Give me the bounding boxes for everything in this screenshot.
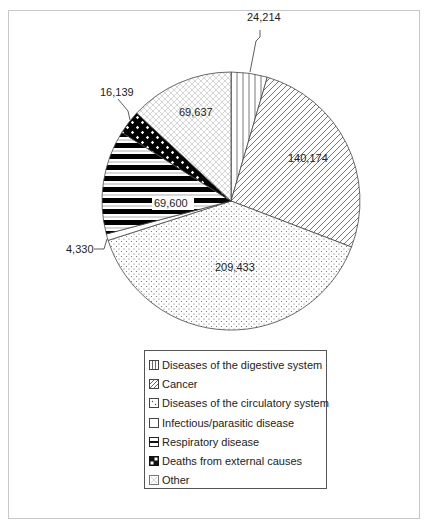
legend-label: Diseases of the digestive system [162,359,322,371]
legend-label: Diseases of the circulatory system [162,397,329,409]
blank-swatch-icon [149,418,159,428]
value-label-external: 16,139 [100,86,134,98]
legend-item-infectious: Infectious/parasitic disease [149,413,326,432]
legend-item-cancer: Cancer [149,374,326,393]
vertical-lines-swatch-icon [149,360,159,370]
legend-item-circulatory: Diseases of the circulatory system [149,394,326,413]
leader-infectious [94,239,107,249]
value-label-circulatory: 209,433 [215,261,255,273]
legend-item-respiratory: Respiratory disease [149,432,326,451]
value-label-digestive: 24,214 [247,11,281,23]
leader-external [118,99,130,120]
legend-label: Other [162,474,190,486]
value-label-other: 69,637 [179,106,213,118]
dots-swatch-icon [149,398,159,408]
legend-item-digestive: Diseases of the digestive system [149,355,326,374]
legend-label: Deaths from external causes [162,455,302,467]
horizontal-bars-swatch-icon [149,437,159,447]
legend-item-other: Other [149,471,326,490]
legend-label: Respiratory disease [162,436,259,448]
diagonal-lines-swatch-icon [149,379,159,389]
value-label-cancer: 140,174 [288,152,328,164]
legend: Diseases of the digestive system Cancer … [144,350,327,489]
value-label-respiratory: 69,600 [154,197,188,209]
crosshatch-swatch-icon [149,475,159,485]
checker-swatch-icon [149,456,159,466]
legend-item-external: Deaths from external causes [149,451,326,470]
leader-digestive [250,30,260,72]
legend-label: Infectious/parasitic disease [162,417,294,429]
value-label-infectious: 4,330 [66,243,94,255]
legend-label: Cancer [162,378,197,390]
